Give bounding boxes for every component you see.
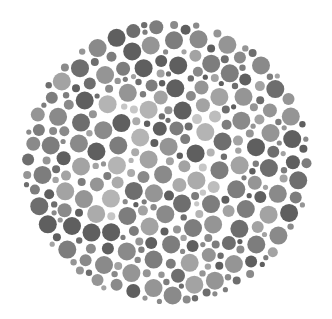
dot-plate [0,0,332,319]
